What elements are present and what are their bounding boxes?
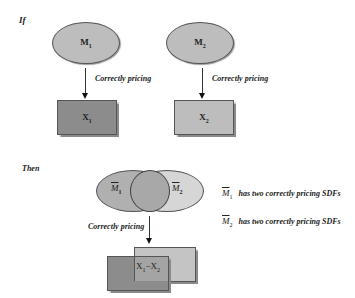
rect-x2-label: X2 [199,112,209,124]
arrow-label-right: Correctly pricing [212,74,268,83]
rect-x2: X2 [174,100,234,135]
venn-label-m1: M1 [111,183,122,195]
then-heading: Then [22,164,39,173]
intersection-label: X1−X2 [136,261,160,273]
ellipse-m1-label: M1 [80,37,92,49]
venn-overlap [130,170,170,212]
ellipse-m1: M1 [52,22,120,64]
if-heading: If [19,15,26,25]
note-m1: M1 has two correctly pricing SDFs [222,188,341,200]
rect-x1: X1 [57,100,117,135]
arrow-line-then [149,216,150,240]
arrow-line-left [85,68,86,94]
venn-label-m2: M2 [172,183,183,195]
arrow-down-icon [146,238,152,244]
arrow-label-left: Correctly pricing [95,74,151,83]
rect-x1-label: X1 [82,112,92,124]
arrow-line-right [202,68,203,94]
arrow-down-icon [199,93,205,99]
ellipse-m2-label: M2 [194,37,206,49]
ellipse-m2: M2 [166,22,234,64]
arrow-label-then: Correctly pricing [88,222,144,231]
arrow-down-icon [82,93,88,99]
note-m2: M2 has two correctly pricing SDFs [222,216,341,228]
